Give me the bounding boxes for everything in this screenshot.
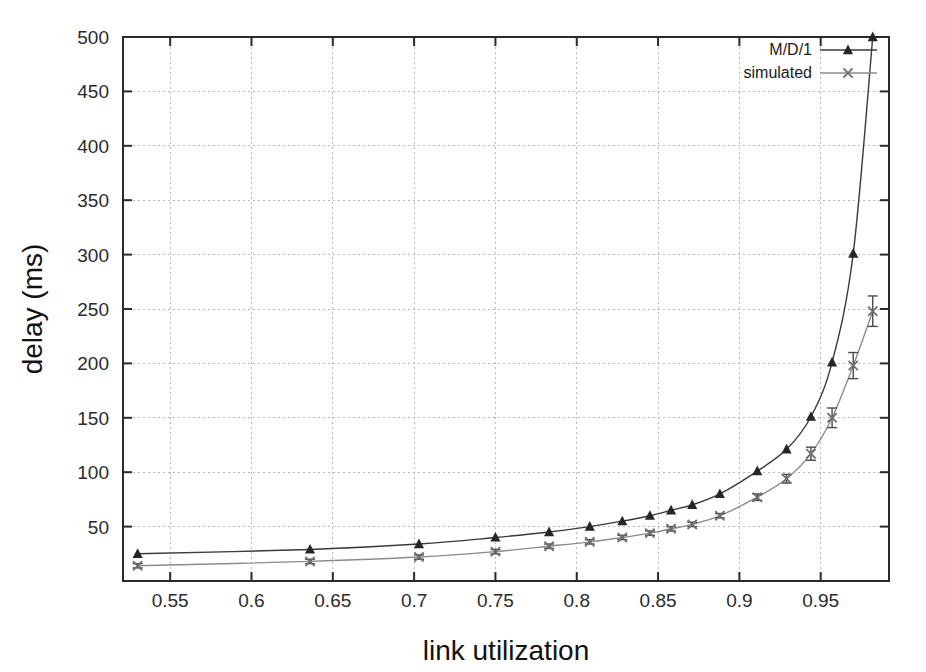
- legend-label: M/D/1: [769, 41, 812, 58]
- x-tick-label: 0.7: [401, 590, 427, 611]
- series-line: [138, 311, 873, 566]
- data-point-marker-x: [715, 511, 724, 520]
- chart-svg: 0.550.60.650.70.750.80.850.90.95 5010015…: [0, 0, 926, 672]
- x-tick-label: 0.8: [564, 590, 590, 611]
- delay-vs-link-utilization-chart: 0.550.60.650.70.750.80.850.90.95 5010015…: [0, 0, 926, 672]
- y-tick-label: 350: [77, 190, 109, 211]
- x-tick-label: 0.55: [152, 590, 189, 611]
- series-mdq: [133, 32, 878, 558]
- data-point-marker-triangle: [848, 248, 858, 258]
- x-tick-label: 0.9: [726, 590, 752, 611]
- x-tick-label: 0.75: [477, 590, 514, 611]
- x-tick-label: 0.85: [640, 590, 677, 611]
- data-point-marker-triangle: [715, 488, 725, 498]
- y-tick-label: 150: [77, 408, 109, 429]
- x-tick-label: 0.65: [314, 590, 351, 611]
- legend: M/D/1simulated: [744, 41, 877, 81]
- x-axis-title: link utilization: [423, 635, 590, 666]
- y-tick-label: 50: [88, 517, 109, 538]
- grid-layer: [123, 37, 889, 581]
- legend-entry-simulated: simulated: [744, 64, 877, 81]
- x-tick-label: 0.95: [802, 590, 839, 611]
- series-layer: [133, 32, 878, 571]
- y-tick-label: 450: [77, 81, 109, 102]
- y-tick-label: 400: [77, 136, 109, 157]
- y-tick-label: 250: [77, 299, 109, 320]
- series-line: [138, 37, 873, 554]
- y-axis-title: delay (ms): [17, 244, 48, 375]
- legend-entry-mdq: M/D/1: [769, 41, 877, 58]
- y-tick-label: 100: [77, 462, 109, 483]
- legend-label: simulated: [744, 64, 812, 81]
- data-point-marker-x: [688, 520, 697, 529]
- y-tick-label: 200: [77, 353, 109, 374]
- y-tick-label: 500: [77, 27, 109, 48]
- x-tick-labels: 0.550.60.650.70.750.80.850.90.95: [152, 590, 840, 611]
- y-tick-label: 300: [77, 245, 109, 266]
- data-point-marker-triangle: [827, 357, 837, 367]
- y-tick-labels: 50100150200250300350400450500: [77, 27, 109, 538]
- series-simulated: [133, 296, 878, 570]
- data-point-marker-triangle: [752, 466, 762, 476]
- data-point-marker-triangle: [806, 411, 816, 421]
- x-tick-label: 0.6: [238, 590, 264, 611]
